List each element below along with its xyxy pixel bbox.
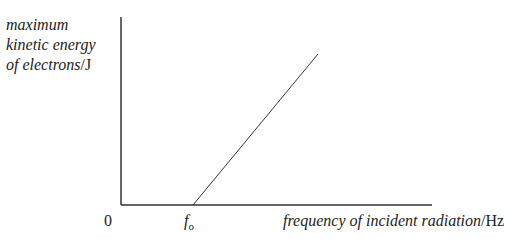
origin-label: 0 xyxy=(104,212,112,230)
chart-plot xyxy=(0,0,527,239)
threshold-frequency-label: fo xyxy=(184,212,194,232)
x-axis-label: frequency of incident radiation/Hz xyxy=(283,212,504,230)
data-line xyxy=(193,54,318,205)
x-axis-label-text: frequency of incident radiation xyxy=(283,212,481,229)
x-axis-unit: /Hz xyxy=(481,212,504,229)
f-subscript: o xyxy=(188,220,194,232)
